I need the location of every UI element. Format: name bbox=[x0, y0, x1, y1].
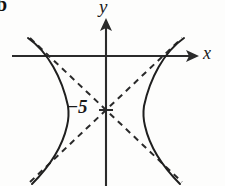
y-tick-label-minus5: −5 bbox=[67, 97, 87, 116]
figure-canvas bbox=[0, 0, 225, 186]
hyperbola-left-branch bbox=[28, 38, 69, 184]
y-axis-label: y bbox=[99, 0, 107, 16]
x-axis-label: x bbox=[203, 44, 211, 62]
part-label: b bbox=[0, 0, 7, 14]
hyperbola-figure: b y x −5 bbox=[0, 0, 225, 186]
hyperbola-right-branch bbox=[143, 38, 184, 184]
